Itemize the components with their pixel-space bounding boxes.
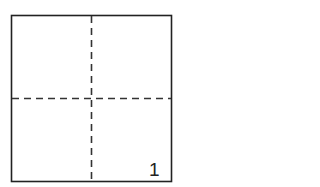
panel-number: 1	[149, 160, 160, 179]
